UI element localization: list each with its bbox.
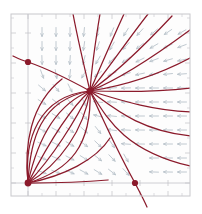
fixed-point-marker: [132, 180, 138, 186]
fixed-point-marker: [87, 88, 94, 95]
fixed-point-marker: [25, 180, 32, 187]
fixed-point-marker: [25, 59, 31, 65]
phase-portrait-canvas: [0, 0, 202, 214]
plot-area-background: [11, 14, 190, 196]
phase-portrait-figure: [0, 0, 202, 214]
